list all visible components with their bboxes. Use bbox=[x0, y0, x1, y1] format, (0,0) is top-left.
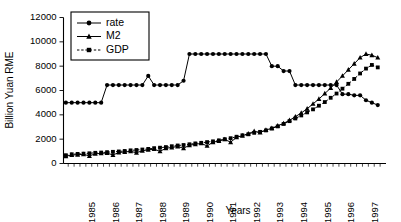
data-point-marker bbox=[158, 83, 162, 87]
data-point-marker bbox=[305, 83, 309, 87]
data-point-marker bbox=[99, 101, 103, 105]
data-point-marker bbox=[293, 117, 297, 121]
data-point-marker bbox=[234, 52, 238, 56]
data-point-marker bbox=[352, 77, 356, 81]
data-point-marker bbox=[358, 55, 363, 60]
data-point-marker bbox=[99, 151, 103, 155]
data-point-marker bbox=[140, 148, 144, 152]
y-tick-label: 10000 bbox=[30, 35, 56, 46]
data-point-marker bbox=[264, 129, 268, 133]
data-point-marker bbox=[193, 52, 197, 56]
data-point-marker bbox=[105, 150, 109, 154]
data-point-marker bbox=[293, 83, 297, 87]
data-point-marker bbox=[335, 92, 339, 96]
data-point-marker bbox=[364, 98, 368, 102]
data-point-marker bbox=[199, 141, 203, 145]
x-tick-label: 1985 bbox=[86, 202, 97, 222]
data-point-marker bbox=[146, 74, 150, 78]
y-tick-label: 12000 bbox=[30, 11, 56, 22]
data-point-marker bbox=[205, 140, 209, 144]
data-point-marker bbox=[111, 150, 115, 154]
data-point-marker bbox=[229, 136, 233, 140]
data-point-marker bbox=[93, 151, 97, 155]
y-tick-label: 8000 bbox=[35, 60, 56, 71]
data-point-marker bbox=[181, 79, 185, 83]
data-point-marker bbox=[358, 93, 362, 97]
data-point-marker bbox=[105, 83, 109, 87]
data-point-marker bbox=[341, 87, 345, 91]
data-point-marker bbox=[323, 100, 327, 104]
data-point-marker bbox=[229, 52, 233, 56]
x-tick-label: 1994 bbox=[298, 202, 309, 222]
data-point-marker bbox=[87, 101, 91, 105]
data-point-marker bbox=[370, 63, 374, 67]
data-point-marker bbox=[323, 83, 327, 87]
data-point-marker bbox=[211, 52, 215, 56]
data-point-marker bbox=[217, 52, 221, 56]
data-point-marker bbox=[235, 135, 239, 139]
data-point-marker bbox=[241, 133, 245, 137]
data-point-marker bbox=[170, 83, 174, 87]
x-tick-label: 1996 bbox=[345, 202, 356, 222]
data-point-marker bbox=[193, 142, 197, 146]
data-point-marker bbox=[205, 52, 209, 56]
data-point-marker bbox=[299, 114, 303, 118]
data-point-marker bbox=[64, 153, 68, 157]
data-point-marker bbox=[287, 69, 291, 73]
data-point-marker bbox=[217, 138, 221, 142]
x-tick-label: 1989 bbox=[180, 202, 191, 222]
data-point-marker bbox=[70, 101, 74, 105]
data-point-marker bbox=[81, 101, 85, 105]
data-point-marker bbox=[176, 144, 180, 148]
series-line-M2 bbox=[66, 54, 378, 156]
chart-container: 020004000600080001000012000 198519861987… bbox=[0, 0, 401, 222]
data-point-marker bbox=[376, 103, 380, 107]
data-point-marker bbox=[305, 111, 309, 115]
data-point-marker bbox=[282, 122, 286, 126]
data-point-marker bbox=[70, 152, 74, 156]
data-point-marker bbox=[311, 107, 315, 111]
data-point-marker bbox=[64, 101, 68, 105]
data-point-marker bbox=[364, 51, 369, 56]
data-point-marker bbox=[117, 150, 121, 154]
data-point-marker bbox=[264, 52, 268, 56]
y-tick-label: 0 bbox=[51, 157, 56, 168]
series-plot-area bbox=[63, 51, 380, 158]
data-point-marker bbox=[240, 52, 244, 56]
data-point-marker bbox=[270, 64, 274, 68]
data-point-marker bbox=[123, 83, 127, 87]
data-point-marker bbox=[364, 67, 368, 71]
x-tick-label: 1993 bbox=[274, 202, 285, 222]
data-point-marker bbox=[288, 119, 292, 123]
x-axis-title: Years bbox=[225, 205, 250, 216]
data-point-marker bbox=[223, 52, 227, 56]
data-point-marker bbox=[164, 83, 168, 87]
data-point-marker bbox=[252, 52, 256, 56]
x-tick-label: 1987 bbox=[133, 202, 144, 222]
data-point-marker bbox=[346, 92, 350, 96]
x-tick-label: 1988 bbox=[157, 202, 168, 222]
data-point-marker bbox=[258, 130, 262, 134]
data-point-marker bbox=[352, 93, 356, 97]
y-axis: 020004000600080001000012000 bbox=[30, 11, 63, 168]
data-point-marker bbox=[340, 92, 344, 96]
data-point-marker bbox=[158, 146, 162, 150]
data-point-marker bbox=[140, 83, 144, 87]
data-point-marker bbox=[146, 147, 150, 151]
data-point-marker bbox=[223, 137, 227, 141]
data-point-marker bbox=[111, 83, 115, 87]
legend-label-M2: M2 bbox=[106, 29, 121, 41]
economic-indicators-line-chart: 020004000600080001000012000 198519861987… bbox=[0, 0, 401, 222]
data-point-marker bbox=[170, 144, 174, 148]
data-point-marker bbox=[82, 152, 86, 156]
data-point-marker bbox=[358, 72, 362, 76]
series-M2 bbox=[63, 51, 380, 158]
x-tick-label: 1992 bbox=[251, 202, 262, 222]
y-tick-label: 4000 bbox=[35, 108, 56, 119]
data-point-marker bbox=[152, 146, 156, 150]
y-axis-title: Billion Yuan RME bbox=[4, 51, 15, 128]
y-tick-label: 6000 bbox=[35, 84, 56, 95]
data-point-marker bbox=[87, 21, 92, 26]
data-point-marker bbox=[317, 83, 321, 87]
x-tick-label: 1997 bbox=[369, 202, 380, 222]
